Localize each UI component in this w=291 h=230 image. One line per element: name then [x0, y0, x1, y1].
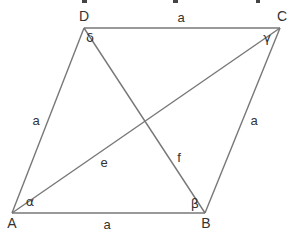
- angle-label-beta: β: [191, 196, 199, 211]
- angle-label-alpha: α: [26, 194, 35, 209]
- side-da: [12, 28, 84, 213]
- diagonal-e: [12, 28, 280, 213]
- vertex-label-b: B: [201, 215, 210, 230]
- angle-label-delta: δ: [86, 30, 94, 45]
- angle-label-gamma: γ: [263, 30, 271, 45]
- side-label-da: a: [32, 113, 40, 128]
- vertex-label-c: C: [277, 8, 287, 24]
- rhombus-diagram: A B C D a a a a e f α β γ δ: [0, 0, 291, 230]
- vertex-label-a: A: [7, 215, 17, 230]
- side-label-cd: a: [177, 10, 185, 25]
- title-remnant: [82, 0, 260, 3]
- side-label-ab: a: [103, 217, 111, 230]
- side-bc: [205, 28, 280, 213]
- diagonal-f: [84, 28, 205, 213]
- rhombus-diagonals: [12, 28, 280, 213]
- diagonal-label-f: f: [177, 150, 181, 165]
- side-label-bc: a: [250, 113, 258, 128]
- diagonal-label-e: e: [100, 155, 107, 170]
- vertex-label-d: D: [79, 8, 89, 24]
